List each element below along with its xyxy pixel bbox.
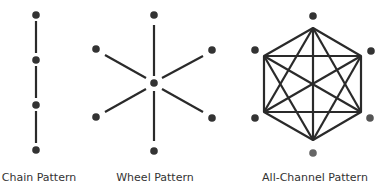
wheel-pattern-label: Wheel Pattern <box>116 171 194 184</box>
communication-patterns-diagram <box>0 0 389 191</box>
chain-pattern-label: Chain Pattern <box>2 171 77 184</box>
chain-pattern <box>32 11 40 154</box>
wheel-pattern <box>92 11 216 155</box>
all-channel-pattern <box>251 12 375 157</box>
all-channel-pattern-label: All-Channel Pattern <box>262 171 368 184</box>
